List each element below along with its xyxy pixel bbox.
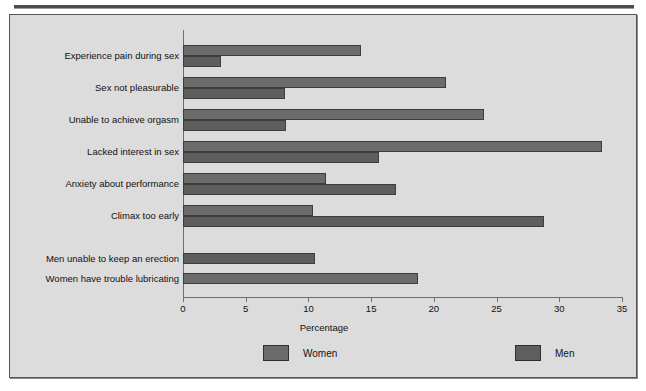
bar-women-5 [183, 205, 313, 216]
bar-men-3 [183, 152, 379, 163]
legend-label: Women [303, 348, 337, 359]
x-axis-tick [371, 297, 372, 302]
bar-women-2 [183, 109, 484, 120]
x-axis-tick-label: 25 [491, 303, 502, 314]
x-axis-tick-label: 30 [554, 303, 565, 314]
x-axis-tick [622, 297, 623, 302]
bar-women-1 [183, 77, 446, 88]
x-axis-tick [308, 297, 309, 302]
bar-women-0 [183, 45, 361, 56]
legend-label: Men [555, 348, 574, 359]
x-axis-tick-label: 20 [429, 303, 440, 314]
category-label: Experience pain during sex [64, 50, 179, 61]
chart-figure: 05101520253035Experience pain during sex… [0, 0, 646, 391]
bar-men-4 [183, 184, 396, 195]
legend-swatch-men [515, 345, 541, 361]
bar-women-3 [183, 141, 602, 152]
legend-item-women[interactable]: Women [263, 345, 337, 361]
x-axis-tick-label: 5 [243, 303, 248, 314]
x-axis-tick-label: 0 [180, 303, 185, 314]
bar-men-2 [183, 120, 286, 131]
bar-men-6 [183, 253, 315, 264]
category-label: Unable to achieve orgasm [69, 114, 179, 125]
x-axis-title: Percentage [10, 322, 638, 333]
category-label: Climax too early [111, 210, 179, 221]
top-divider-rule [14, 5, 634, 8]
x-axis-tick [183, 297, 184, 302]
x-axis-tick [559, 297, 560, 302]
x-axis-tick-label: 10 [303, 303, 314, 314]
bar-women-7 [183, 273, 418, 284]
bar-men-5 [183, 216, 544, 227]
bar-men-1 [183, 88, 285, 99]
category-label: Sex not pleasurable [95, 82, 179, 93]
bar-women-4 [183, 173, 326, 184]
x-axis-tick [497, 297, 498, 302]
legend-swatch-women [263, 345, 289, 361]
bar-men-0 [183, 56, 221, 67]
category-label: Women have trouble lubricating [46, 273, 179, 284]
category-label: Anxiety about performance [65, 178, 179, 189]
x-axis-tick [434, 297, 435, 302]
legend-item-men[interactable]: Men [515, 345, 574, 361]
chart-panel: 05101520253035Experience pain during sex… [9, 14, 637, 378]
category-label: Men unable to keep an erection [46, 253, 179, 264]
x-axis-line [183, 297, 622, 298]
category-label: Lacked interest in sex [87, 146, 179, 157]
chart-legend: WomenMen [10, 345, 638, 369]
x-axis-tick-label: 35 [617, 303, 628, 314]
x-axis-tick [246, 297, 247, 302]
x-axis-tick-label: 15 [366, 303, 377, 314]
